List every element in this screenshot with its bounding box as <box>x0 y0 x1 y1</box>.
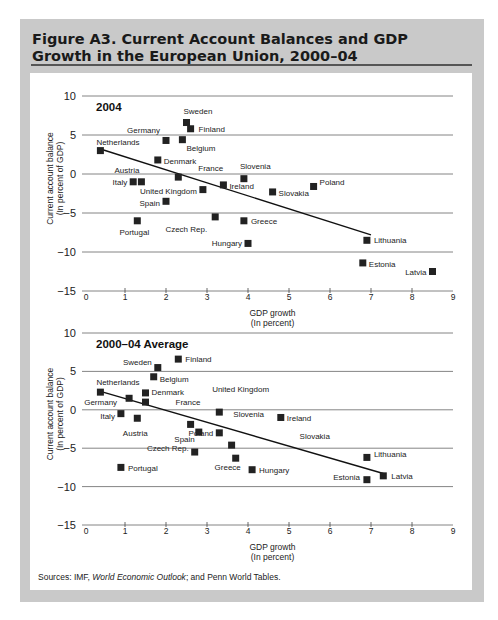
data-point-label: Slovenia <box>233 410 264 419</box>
data-point-label: United Kingdom <box>212 385 269 394</box>
x-tick-label: 2 <box>164 526 169 536</box>
data-point-marker <box>142 389 149 396</box>
data-point-marker <box>216 429 223 436</box>
data-point-marker <box>277 414 284 421</box>
data-point-label: Greece <box>215 463 242 472</box>
x-axis-label: GDP growth <box>249 542 295 552</box>
data-point-label: Italy <box>100 412 115 421</box>
y-axis-label: Current account balance <box>45 367 55 460</box>
data-point-marker <box>117 410 124 417</box>
data-point-label: Netherlands <box>96 378 139 387</box>
x-tick-label: 7 <box>369 526 374 536</box>
data-point-marker <box>249 466 256 473</box>
x-tick-label: 4 <box>246 526 251 536</box>
data-point-label: Belgium <box>160 375 189 384</box>
y-axis-unit: (In percent of GDP) <box>55 377 65 451</box>
x-tick-label: 9 <box>451 526 456 536</box>
data-point-label: Portugal <box>128 464 158 473</box>
data-point-label: Austria <box>123 429 148 438</box>
y-tick-label: −5 <box>63 442 76 454</box>
data-point-label: Hungary <box>259 466 289 475</box>
data-point-label: Estonia <box>333 473 360 482</box>
data-point-marker <box>97 389 104 396</box>
data-point-marker <box>150 373 157 380</box>
y-tick-label: 0 <box>70 404 76 416</box>
data-point-label: Latvia <box>391 472 413 481</box>
data-point-marker <box>216 409 223 416</box>
data-point-label: Lithuania <box>374 450 407 459</box>
x-tick-label: 8 <box>410 526 415 536</box>
data-point-label: Czech Rep. <box>147 444 189 453</box>
x-axis-unit: (In percent) <box>251 552 295 562</box>
data-point-marker <box>228 442 235 449</box>
data-point-label: Slovakia <box>300 432 331 441</box>
y-tick-label: 10 <box>64 327 76 339</box>
data-point-marker <box>191 449 198 456</box>
data-point-marker <box>232 455 239 462</box>
y-tick-label: −10 <box>57 481 76 493</box>
data-point-label: Poland <box>188 429 213 438</box>
y-tick-label: −15 <box>57 519 76 531</box>
x-tick-label: 0 <box>84 526 89 536</box>
data-point-marker <box>117 464 124 471</box>
x-tick-label: 3 <box>205 526 210 536</box>
data-point-label: Sweden <box>123 358 152 367</box>
panel-title: 2000–04 Average <box>96 338 189 350</box>
data-point-label: Denmark <box>152 388 185 397</box>
source-note: Sources: IMF, World Economic Outlook; an… <box>38 572 281 582</box>
x-tick-label: 6 <box>328 526 333 536</box>
data-point-marker <box>380 472 387 479</box>
x-tick-label: 1 <box>123 526 128 536</box>
data-point-marker <box>363 476 370 483</box>
scatter-chart-average: 1050−5−10−150123456789GDP growth(In perc… <box>0 0 498 620</box>
data-point-marker <box>134 415 141 422</box>
data-point-marker <box>187 421 194 428</box>
data-point-label: Ireland <box>287 414 311 423</box>
data-point-marker <box>142 399 149 406</box>
data-point-label: Germany <box>84 398 117 407</box>
data-point-marker <box>175 356 182 363</box>
data-point-marker <box>126 395 133 402</box>
data-point-marker <box>363 454 370 461</box>
y-tick-label: 5 <box>70 365 76 377</box>
data-point-label: Finland <box>185 355 211 364</box>
x-tick-label: 5 <box>287 526 292 536</box>
data-point-label: France <box>176 398 201 407</box>
data-point-marker <box>154 364 161 371</box>
